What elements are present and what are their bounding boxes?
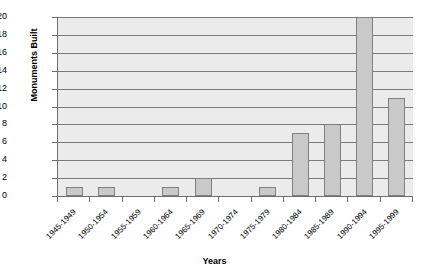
y-axis-tick-label: 4 [0, 155, 7, 164]
y-axis-tick-label: 0 [0, 191, 7, 200]
x-axis-tick-mark [186, 197, 187, 202]
x-axis-tick-mark [412, 197, 413, 202]
y-axis-title: Monuments Built [29, 0, 39, 145]
y-axis-tick-label: 8 [0, 119, 7, 128]
x-axis-tick-mark [347, 197, 348, 202]
y-axis-tick-label: 18 [0, 30, 7, 39]
x-axis-tick-mark [89, 197, 90, 202]
bar [356, 17, 373, 196]
x-axis-tick-mark [122, 197, 123, 202]
bar [195, 178, 212, 196]
bar-chart: Monuments Built 02468101214161820 1945-1… [0, 0, 429, 276]
x-axis-tick-mark [283, 197, 284, 202]
y-axis-tick-label: 20 [0, 12, 7, 21]
y-axis-tick-label: 12 [0, 84, 7, 93]
x-axis-tick-mark [315, 197, 316, 202]
bar [66, 187, 83, 196]
x-axis-tick-mark [218, 197, 219, 202]
plot-area [57, 17, 413, 197]
x-axis-tick-mark [251, 197, 252, 202]
bar [162, 187, 179, 196]
x-axis-tick-mark [380, 197, 381, 202]
bar [292, 133, 309, 196]
y-axis-tick-label: 2 [0, 173, 7, 182]
x-axis-title: Years [0, 256, 429, 266]
bar [259, 187, 276, 196]
y-axis-tick-label: 14 [0, 66, 7, 75]
x-axis-tick-mark [154, 197, 155, 202]
y-axis-tick-label: 6 [0, 137, 7, 146]
bar [324, 124, 341, 196]
bar [98, 187, 115, 196]
y-axis-tick-label: 16 [0, 48, 7, 57]
bar [388, 98, 405, 196]
y-axis-tick-label: 10 [0, 102, 7, 111]
x-axis-tick-mark [57, 197, 58, 202]
